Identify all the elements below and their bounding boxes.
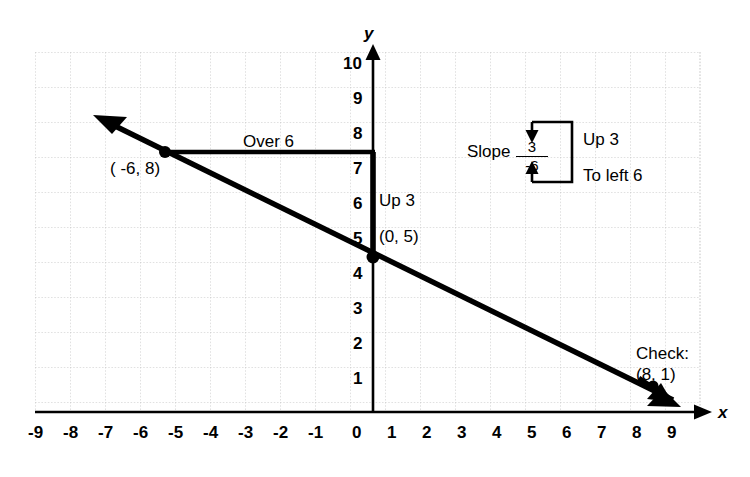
x-tick-2: 2 [422, 424, 431, 441]
y-tick-3: 3 [353, 300, 362, 317]
label-slope-word: Slope [467, 143, 510, 160]
x-tick--5: -5 [168, 424, 183, 441]
x-tick--4: -4 [203, 424, 218, 441]
slope-denominator: -6 [516, 158, 548, 174]
x-tick--2: -2 [273, 424, 288, 441]
y-tick-10: 10 [343, 55, 362, 72]
x-tick-7: 7 [597, 424, 606, 441]
y-tick-9: 9 [353, 90, 362, 107]
x-tick-1: 1 [387, 424, 396, 441]
x-tick-5: 5 [527, 424, 536, 441]
label-bracket-to-left-6: To left 6 [583, 167, 643, 184]
x-tick-0: 0 [352, 424, 361, 441]
x-tick--1: -1 [308, 424, 323, 441]
x-tick--8: -8 [63, 424, 78, 441]
x-tick--7: -7 [98, 424, 113, 441]
label-up-3-graph: Up 3 [379, 192, 415, 209]
grid [35, 52, 700, 412]
x-tick--9: -9 [28, 424, 43, 441]
x-axis-label: x [718, 404, 727, 421]
label-check-title: Check: [636, 345, 689, 362]
x-tick-6: 6 [562, 424, 571, 441]
label-over-6: Over 6 [243, 133, 294, 150]
y-tick-7: 7 [353, 160, 362, 177]
graph-figure: -9 -8 -7 -6 -5 -4 -3 -2 -1 0 1 2 3 4 5 6… [0, 0, 750, 477]
x-tick--3: -3 [238, 424, 253, 441]
x-tick--6: -6 [133, 424, 148, 441]
y-tick-8: 8 [353, 125, 362, 142]
slope-numerator: 3 [516, 139, 548, 155]
y-tick-5: 5 [353, 230, 362, 247]
y-tick-2: 2 [353, 335, 362, 352]
x-tick-3: 3 [457, 424, 466, 441]
graph-canvas [0, 0, 750, 477]
x-tick-8: 8 [632, 424, 641, 441]
y-tick-6: 6 [353, 195, 362, 212]
label-point-0-5: (0, 5) [379, 228, 419, 245]
y-tick-1: 1 [353, 370, 362, 387]
y-axis-label: y [364, 25, 373, 42]
y-tick-4: 4 [353, 265, 362, 282]
label-point-neg6-8: ( -6, 8) [110, 160, 160, 177]
x-tick-4: 4 [492, 424, 501, 441]
label-bracket-up-3: Up 3 [583, 131, 619, 148]
slope-fraction: 3 -6 [516, 139, 548, 174]
x-tick-9: 9 [667, 424, 676, 441]
label-check-point: (8, 1) [636, 366, 676, 383]
